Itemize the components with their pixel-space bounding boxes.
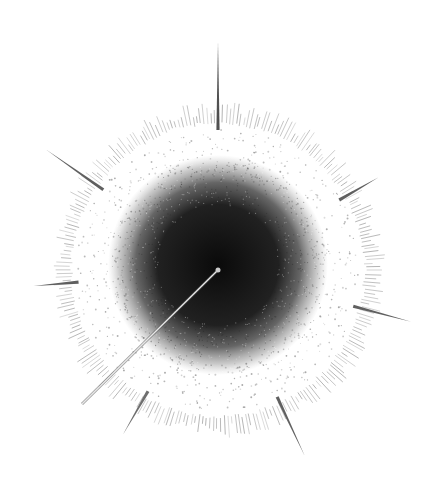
hub-node: [216, 268, 221, 273]
dense-core: [108, 155, 328, 375]
network-graph: [0, 0, 439, 495]
